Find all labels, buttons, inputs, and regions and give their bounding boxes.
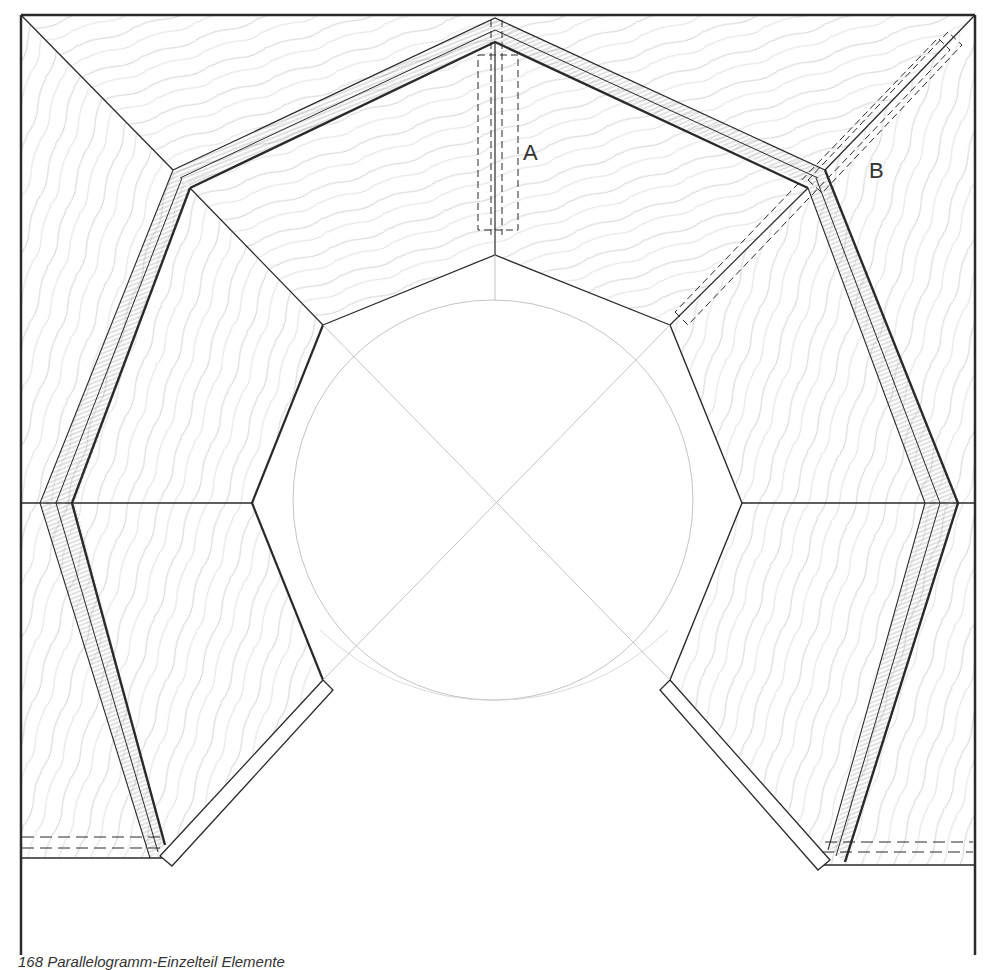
label-b: B — [869, 158, 884, 184]
label-a: A — [523, 140, 538, 166]
figure-caption: 168 Parallelogramm-Einzelteil Elemente — [18, 953, 285, 970]
octagonal-frame-drawing — [0, 0, 987, 970]
construction-lines — [293, 255, 693, 700]
wood-grain-hatching — [21, 15, 975, 865]
